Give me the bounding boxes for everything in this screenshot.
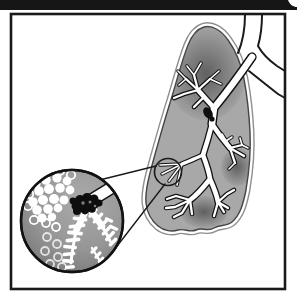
alveolus [55,183,65,193]
tumor-lobe [73,207,81,215]
header-bar [0,0,297,10]
alveolus [44,184,54,194]
tumor-lobe [70,198,77,205]
medical-illustration [0,0,297,293]
blockage-nub [209,116,214,121]
alveolus [66,186,75,195]
tumor-lobe [81,206,90,215]
header-bar-fill [0,0,297,10]
alveolus [43,204,53,214]
tumor-lobe [95,199,102,206]
alveolus [32,205,42,215]
alveolus [59,195,68,204]
tumor-highlight [94,205,97,208]
tumor-highlight [89,201,92,204]
tumor-highlight [81,201,84,204]
alveolus [54,204,63,213]
alveolus [49,194,59,204]
alveolus [38,195,48,205]
alveolus [34,186,44,196]
